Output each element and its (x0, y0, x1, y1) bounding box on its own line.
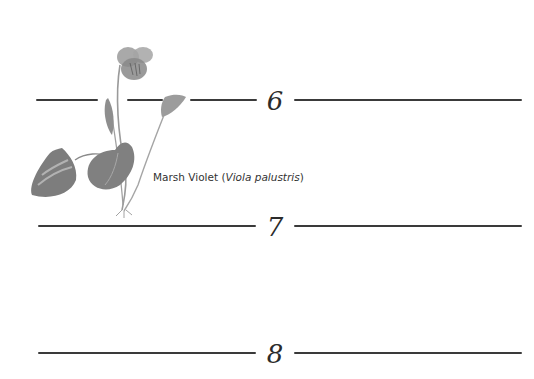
rule-7-right (294, 225, 522, 227)
line-number-7: 7 (260, 214, 290, 240)
rule-6-segment-c (190, 99, 257, 101)
line-number-8: 8 (260, 341, 290, 367)
violet-flower (117, 47, 153, 80)
line-number-6: 6 (260, 88, 290, 114)
marsh-violet-illustration (20, 35, 210, 220)
rule-7-left (38, 225, 256, 227)
rule-8-right (294, 352, 522, 354)
latin-name: Viola palustris (226, 171, 300, 183)
plant-caption: Marsh Violet (Viola palustris) (153, 171, 304, 183)
rule-6-segment-a (36, 99, 98, 101)
rule-8-left (38, 352, 256, 354)
rule-6-right (294, 99, 522, 101)
rule-6-segment-b (127, 99, 163, 101)
common-name: Marsh Violet (153, 171, 218, 183)
